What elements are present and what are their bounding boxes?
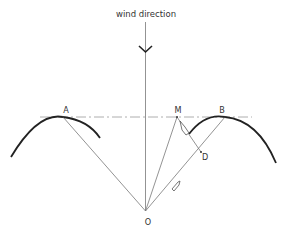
- left-wave-crest: [11, 117, 100, 158]
- label-O: O: [145, 217, 151, 227]
- boat-icon-ob: [172, 181, 180, 191]
- label-B: B: [219, 105, 225, 115]
- boat-icon-md: [180, 121, 189, 135]
- label-A: A: [63, 105, 69, 115]
- point-M: [176, 116, 178, 118]
- line-OM: [146, 117, 178, 211]
- point-A: [62, 116, 64, 118]
- wind-direction-label: wind direction: [116, 9, 176, 19]
- wind-geometry-diagram: wind direction A M B D O: [0, 0, 286, 231]
- label-M: M: [175, 105, 182, 115]
- line-OA: [63, 117, 146, 211]
- point-B: [224, 116, 226, 118]
- label-D: D: [202, 152, 208, 162]
